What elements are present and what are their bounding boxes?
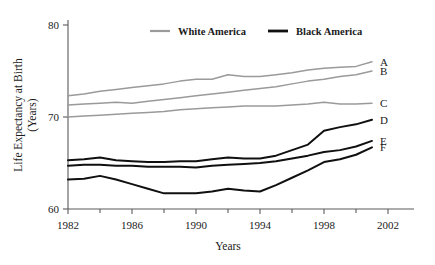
series-end-label-F: F	[380, 141, 386, 153]
x-tick-label: 1986	[121, 219, 144, 231]
chart-series-lines	[68, 62, 372, 194]
series-line-D	[68, 120, 372, 162]
x-tick-label: 1982	[57, 219, 79, 231]
chart-canvas: 607080198219861990199419982002 ABCDEF Wh…	[0, 0, 435, 265]
legend-label-white-america: White America	[178, 26, 247, 37]
y-tick-label: 60	[48, 203, 60, 215]
series-end-label-D: D	[380, 114, 388, 126]
series-end-labels: ABCDEF	[380, 56, 388, 154]
chart-tick-labels: 607080198219861990199419982002	[48, 19, 399, 231]
series-line-C	[68, 102, 372, 117]
series-line-E	[68, 141, 372, 168]
series-line-F	[68, 147, 372, 193]
series-end-label-C: C	[380, 97, 387, 109]
chart-axes	[63, 20, 414, 214]
y-axis-title-line2: (Years)	[26, 98, 39, 131]
y-tick-label: 80	[48, 19, 60, 31]
series-end-label-B: B	[380, 65, 387, 77]
life-expectancy-chart: 607080198219861990199419982002 ABCDEF Wh…	[0, 0, 435, 265]
y-tick-label: 70	[48, 111, 60, 123]
series-line-B	[68, 71, 372, 105]
x-tick-label: 2002	[377, 219, 399, 231]
y-axis-title-line1: Life Expectancy at Birth	[12, 58, 25, 172]
x-tick-label: 1998	[313, 219, 336, 231]
x-axis-title: Years	[215, 240, 241, 252]
x-tick-label: 1994	[249, 219, 272, 231]
x-tick-label: 1990	[185, 219, 208, 231]
chart-legend: White AmericaBlack America	[150, 26, 363, 37]
legend-label-black-america: Black America	[296, 26, 363, 37]
